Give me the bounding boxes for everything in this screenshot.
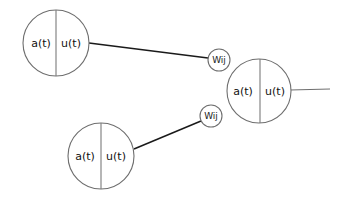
- activation-label: a(t): [31, 37, 51, 50]
- weight-node-upper: Wij: [208, 49, 230, 71]
- activation-label: a(t): [75, 150, 95, 163]
- weight-label: Wij: [212, 55, 226, 65]
- output-label: u(t): [106, 150, 126, 163]
- weight-node-lower: Wij: [200, 105, 222, 127]
- neuron-bottom-left: a(t) u(t): [68, 123, 134, 189]
- edge-upper: [89, 43, 208, 58]
- neural-diagram: a(t) u(t) a(t) u(t) a(t) u(t) Wij Wij: [0, 0, 341, 197]
- neuron-target: a(t) u(t): [227, 59, 291, 123]
- neuron-top-left: a(t) u(t): [23, 10, 89, 76]
- edge-lower: [134, 121, 201, 149]
- output-edge: [290, 89, 330, 90]
- output-label: u(t): [265, 85, 285, 98]
- weight-label: Wij: [204, 111, 218, 121]
- activation-label: a(t): [233, 85, 253, 98]
- output-label: u(t): [61, 37, 81, 50]
